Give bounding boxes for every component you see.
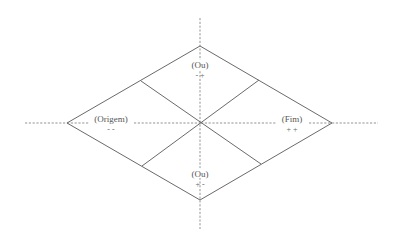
region-bottom-label: (Ou) <box>192 169 209 179</box>
region-bottom: (Ou) + - <box>191 168 209 189</box>
region-top-label: (Ou) <box>192 60 209 70</box>
region-bottom-signs: + - <box>195 180 205 189</box>
region-left-label: (Origem) <box>94 114 128 124</box>
axes <box>25 18 378 229</box>
region-left: (Origem) - - <box>94 114 128 134</box>
region-right: (Fim) + + <box>282 114 303 134</box>
region-top: (Ou) - + <box>191 60 209 80</box>
region-top-signs: - + <box>195 71 205 80</box>
region-right-label: (Fim) <box>282 114 303 124</box>
rhombus-diagram: (Ou) - + (Origem) - - (Fim) + + (Ou) + - <box>0 0 396 242</box>
divider-upper-right-to-lower-left <box>142 80 259 166</box>
region-left-signs: - - <box>107 125 115 134</box>
region-right-signs: + + <box>286 125 298 134</box>
